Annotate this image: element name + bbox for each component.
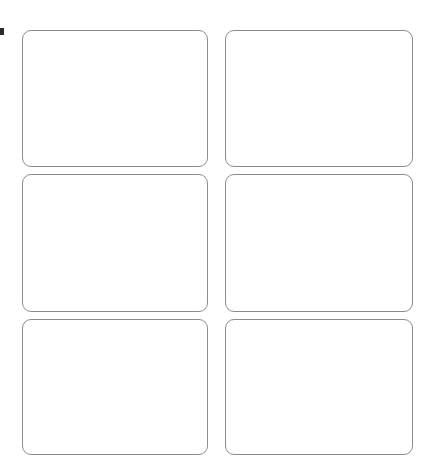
card-item[interactable]: [225, 30, 413, 167]
app-root: [0, 0, 426, 470]
card-item[interactable]: [22, 319, 208, 455]
card-body: [226, 175, 412, 311]
card-body: [23, 320, 207, 454]
card-body: [23, 175, 207, 311]
card-body: [23, 31, 207, 166]
card-item[interactable]: [225, 319, 413, 455]
card-body: [226, 31, 412, 166]
card-item[interactable]: [22, 174, 208, 312]
card-grid: [22, 30, 413, 455]
card-item[interactable]: [22, 30, 208, 167]
card-body: [226, 320, 412, 454]
clipped-glyph-fragment-icon: [0, 28, 4, 35]
card-item[interactable]: [225, 174, 413, 312]
